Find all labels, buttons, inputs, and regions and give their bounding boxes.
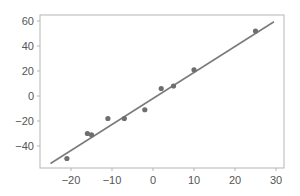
data-point [122,116,127,121]
scatter-chart: −40−200204060 −20−100102030 [0,0,300,196]
data-point [142,107,147,112]
data-point [159,86,164,91]
y-tick-label: 60 [22,15,34,27]
x-tick-label: −10 [103,174,122,186]
data-point [171,83,176,88]
x-tick-label: 10 [188,174,200,186]
y-tick-label: 0 [28,90,34,102]
data-point [191,67,196,72]
y-axis: −40−200204060 [15,15,40,152]
x-tick-label: 20 [229,174,241,186]
x-tick-label: −20 [62,174,81,186]
y-tick-label: −20 [15,115,34,127]
y-tick-label: −40 [15,140,34,152]
x-tick-label: 0 [150,174,156,186]
x-tick-label: 30 [270,174,282,186]
data-point [64,156,69,161]
data-point [105,116,110,121]
data-point [253,28,258,33]
data-point [89,132,94,137]
x-axis: −20−100102030 [62,168,282,186]
y-tick-label: 40 [22,40,34,52]
y-tick-label: 20 [22,65,34,77]
